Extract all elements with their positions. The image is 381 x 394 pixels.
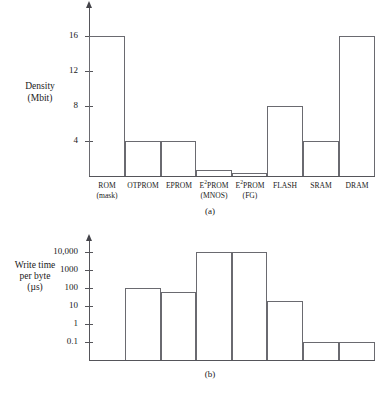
cat-label-rom-sub: (mask)	[85, 191, 129, 200]
bar-otprom-write-time	[125, 288, 161, 360]
y-axis-title-line1-a: Density	[8, 81, 72, 93]
y-tick-1000-b	[85, 270, 93, 271]
bar-flash-write-time	[267, 301, 303, 360]
y-axis-title-line2-b: per byte	[0, 271, 70, 283]
y-tick-label-0.1-b: 0.1	[28, 337, 78, 346]
cat-label-dram: DRAM	[335, 181, 379, 190]
bar-rom-density	[89, 36, 125, 176]
y-axis-title-line1-b: Write time	[0, 260, 70, 272]
bar-sram-density	[303, 141, 339, 176]
y-tick-label-12-a: 12	[48, 66, 78, 75]
x-axis-line-b	[89, 360, 375, 361]
bar-e2prom-mnos-density	[196, 170, 232, 176]
y-tick-label-10000-b: 10,000	[28, 247, 78, 256]
bar-flash-density	[267, 106, 303, 176]
y-tick-100-b	[85, 288, 93, 289]
y-axis-title-line2-a: (Mbit)	[8, 93, 72, 105]
chart-panel-density: 16 12 8 4 Density (Mbit) ROM (mask) OTPR…	[0, 0, 381, 220]
y-tick-10000-b	[85, 252, 93, 253]
bar-e2prom-fg-write-time	[232, 252, 267, 360]
y-tick-label-10-b: 10	[28, 301, 78, 310]
y-axis-arrow-b	[86, 234, 92, 241]
y-tick-label-16-a: 16	[48, 31, 78, 40]
bar-dram-density	[339, 36, 375, 176]
bar-otprom-density	[125, 141, 161, 176]
bar-e2prom-fg-density	[232, 173, 267, 176]
chart-panel-write-time: 10,000 1000 100 10 1 0.1 Write time per …	[0, 230, 381, 394]
bar-dram-write-time	[339, 342, 375, 360]
panel-b-caption: (b)	[180, 369, 240, 379]
panel-a-caption: (a)	[180, 206, 240, 216]
bar-e2prom-mnos-write-time	[196, 252, 232, 360]
y-tick-label-1-b: 1	[28, 319, 78, 328]
y-tick-10-b	[85, 306, 93, 307]
memory-technology-comparison-figure: 16 12 8 4 Density (Mbit) ROM (mask) OTPR…	[0, 0, 381, 394]
y-axis-title-line3-b: (µs)	[0, 282, 70, 294]
bar-sram-write-time	[303, 342, 339, 360]
bar-eprom-write-time	[161, 292, 196, 360]
y-tick-1-b	[85, 324, 93, 325]
cat-label-e2prom-fg-sub: (FG)	[226, 191, 274, 200]
y-axis-arrow-a	[86, 1, 92, 8]
bar-eprom-density	[161, 141, 196, 176]
y-tick-0.1-b	[85, 342, 93, 343]
x-axis-line-a	[89, 176, 375, 177]
y-tick-label-4-a: 4	[48, 136, 78, 145]
